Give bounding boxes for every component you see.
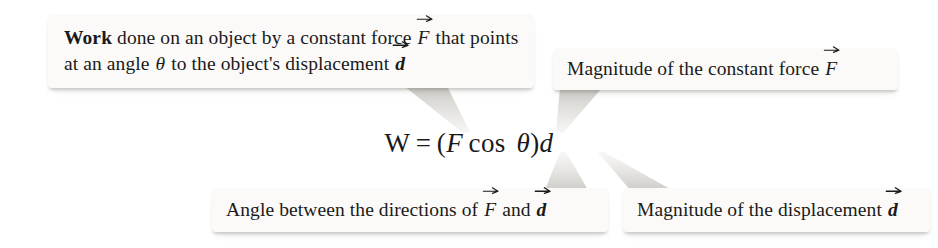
callout-displacement-magnitude-text: Magnitude of the displacement d	[637, 197, 916, 223]
equation-open-paren: (	[437, 128, 446, 158]
vector-F-icon: F	[483, 197, 497, 223]
callout-angle-text-2: and	[497, 199, 535, 220]
equation-symbol-W: W	[385, 128, 411, 158]
vector-F-letter: F	[484, 199, 496, 220]
callout-force-magnitude: Magnitude of the constant force F	[553, 48, 898, 90]
equation-cos: cos	[469, 128, 506, 158]
equation-equals: =	[416, 128, 432, 158]
vector-F-icon: F	[824, 56, 838, 82]
equation-close-paren: )	[530, 128, 539, 158]
equation-work: W=(Fcosθ)d	[0, 126, 938, 160]
vector-F-letter: F	[825, 58, 837, 79]
vector-F-icon: F	[417, 25, 431, 51]
vector-d-letter: d	[888, 199, 898, 220]
callout-force-text-1: Magnitude of the constant force	[567, 58, 824, 79]
vector-d-icon: d	[887, 197, 899, 223]
vector-d-letter: d	[395, 53, 405, 74]
vector-F-letter: F	[418, 27, 430, 48]
callout-work-text-3: to the object's displacement	[166, 53, 394, 74]
callout-angle-definition: Angle between the directions of F and d	[212, 188, 608, 232]
callout-displacement-magnitude: Magnitude of the displacement d	[623, 188, 930, 232]
callout-displacement-text-1: Magnitude of the displacement	[637, 199, 887, 220]
equation-theta: θ	[517, 128, 531, 158]
theta-symbol: θ	[155, 53, 167, 74]
callout-force-magnitude-text: Magnitude of the constant force F	[567, 56, 884, 82]
vector-d-letter: d	[537, 199, 547, 220]
vector-d-icon: d	[536, 197, 548, 223]
callout-work-text-1: done on an object by a constant force	[112, 27, 416, 48]
work-equation-figure: Work done on an object by a constant for…	[0, 0, 938, 248]
equation-symbol-F: F	[446, 128, 463, 158]
vector-d-icon: d	[394, 51, 406, 77]
callout-work-definition: Work done on an object by a constant for…	[48, 14, 534, 88]
callout-work-text: Work done on an object by a constant for…	[64, 25, 522, 77]
equation-symbol-d: d	[540, 128, 554, 158]
callout-angle-text: Angle between the directions of F and d	[226, 197, 594, 223]
arrow-accent-icon	[416, 13, 433, 23]
callout-angle-text-1: Angle between the directions of	[226, 199, 483, 220]
callout-work-lead: Work	[64, 27, 112, 48]
